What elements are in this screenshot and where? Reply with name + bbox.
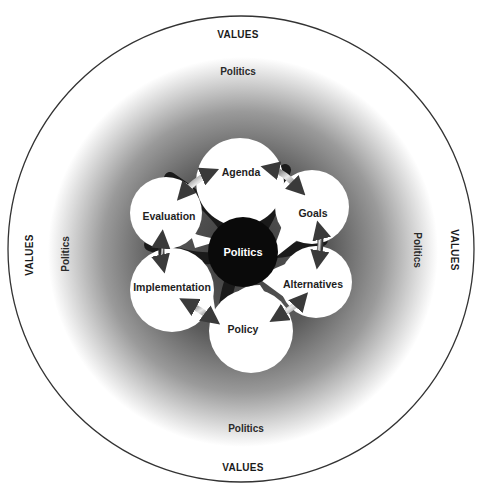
stage-label-goals: Goals bbox=[298, 207, 327, 219]
values-label-bottom: VALUES bbox=[222, 462, 264, 473]
stage-label-agenda: Agenda bbox=[222, 166, 261, 178]
center-politics-label: Politics bbox=[223, 246, 262, 258]
policy-cycle-diagram: VALUES VALUES VALUES VALUES Politics Pol… bbox=[0, 0, 482, 494]
stage-label-implementation: Implementation bbox=[133, 281, 211, 293]
arrow-goals-alternatives bbox=[318, 228, 321, 262]
values-label-right: VALUES bbox=[449, 229, 460, 271]
values-label-top: VALUES bbox=[217, 29, 259, 40]
petal-agenda[interactable] bbox=[196, 138, 284, 226]
arrow-implementation-evaluation bbox=[161, 237, 163, 266]
politics-label-right: Politics bbox=[412, 232, 423, 268]
values-label-left: VALUES bbox=[24, 234, 35, 276]
stage-label-alternatives: Alternatives bbox=[283, 278, 343, 290]
politics-label-left: Politics bbox=[60, 236, 71, 272]
politics-label-top: Politics bbox=[220, 66, 256, 77]
stage-label-policy: Policy bbox=[228, 323, 259, 335]
politics-label-bottom: Politics bbox=[228, 423, 264, 434]
stage-label-evaluation: Evaluation bbox=[142, 210, 195, 222]
